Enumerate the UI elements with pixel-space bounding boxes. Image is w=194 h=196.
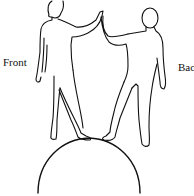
back-figure-head (142, 8, 158, 28)
front-figure-arm-raised (58, 11, 103, 70)
back-figure (101, 8, 166, 146)
back-figure-leg-front (103, 82, 132, 140)
back-figure-leg-back (132, 64, 157, 146)
front-label: Front (3, 57, 27, 68)
back-figure-torso-right (128, 27, 166, 89)
figure-canvas: Front Bac (0, 0, 194, 196)
back-figure-arm-raised (101, 16, 128, 82)
front-figure-leg-front (59, 70, 91, 140)
line-drawing (0, 0, 194, 196)
front-figure-head (48, 1, 63, 18)
semicircle-arc (38, 138, 140, 193)
back-label: Bac (178, 62, 194, 73)
front-figure-leg-back (51, 76, 60, 139)
front-figure-arm-inner (42, 38, 47, 72)
front-figure (36, 1, 103, 140)
